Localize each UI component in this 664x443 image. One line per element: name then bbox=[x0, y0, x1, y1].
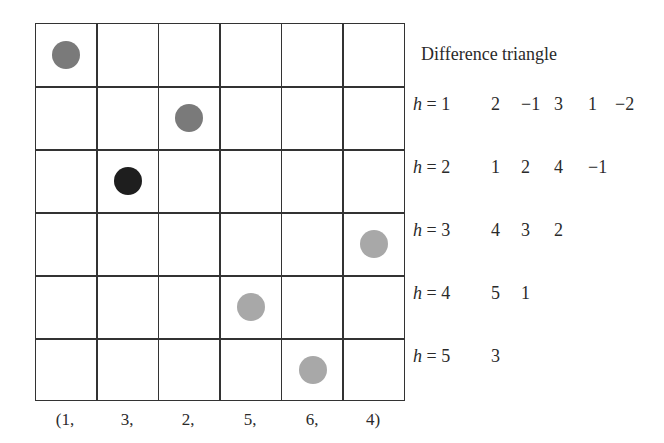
grid-line bbox=[36, 338, 404, 340]
row-label: h = 2 bbox=[413, 157, 491, 178]
x-label: 2, bbox=[158, 410, 218, 430]
difference-value: −1 bbox=[588, 157, 607, 178]
difference-value: 1 bbox=[491, 157, 500, 178]
triangle-row: h = 451 bbox=[413, 283, 491, 304]
grid-line bbox=[36, 212, 404, 214]
x-label: 3, bbox=[97, 410, 157, 430]
x-label: (1, bbox=[35, 410, 95, 430]
grid-dot bbox=[114, 167, 142, 195]
triangle-row: h = 2124−1 bbox=[413, 157, 491, 178]
x-label: 5, bbox=[220, 410, 280, 430]
difference-value: 2 bbox=[521, 157, 530, 178]
triangle-title: Difference triangle bbox=[421, 44, 557, 65]
triangle-row: h = 12−131−2 bbox=[413, 94, 491, 115]
difference-value: 1 bbox=[588, 94, 597, 115]
grid-line bbox=[36, 86, 404, 88]
difference-value: 5 bbox=[491, 283, 500, 304]
difference-value: 2 bbox=[554, 220, 563, 241]
grid-dot bbox=[299, 356, 327, 384]
triangle-row: h = 53 bbox=[413, 346, 491, 367]
difference-value: 3 bbox=[491, 346, 500, 367]
grid-line bbox=[36, 275, 404, 277]
grid-dot bbox=[237, 293, 265, 321]
difference-value: −2 bbox=[615, 94, 634, 115]
row-label: h = 5 bbox=[413, 346, 491, 367]
difference-value: 3 bbox=[554, 94, 563, 115]
difference-value: −1 bbox=[521, 94, 540, 115]
grid-dot bbox=[175, 104, 203, 132]
difference-value: 1 bbox=[521, 283, 530, 304]
x-label: 4) bbox=[343, 410, 403, 430]
x-label: 6, bbox=[282, 410, 342, 430]
difference-value: 4 bbox=[491, 220, 500, 241]
row-label: h = 1 bbox=[413, 94, 491, 115]
costas-grid bbox=[35, 23, 405, 401]
triangle-row: h = 3432 bbox=[413, 220, 491, 241]
difference-value: 3 bbox=[521, 220, 530, 241]
row-label: h = 3 bbox=[413, 220, 491, 241]
grid-dot bbox=[52, 41, 80, 69]
difference-value: 4 bbox=[554, 157, 563, 178]
row-label: h = 4 bbox=[413, 283, 491, 304]
difference-value: 2 bbox=[491, 94, 500, 115]
grid-line bbox=[36, 149, 404, 151]
grid-dot bbox=[360, 230, 388, 258]
